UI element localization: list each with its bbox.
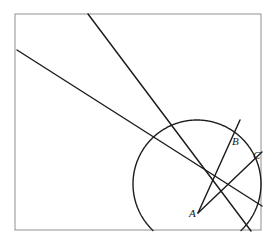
- point-label-b: B: [232, 135, 239, 147]
- point-label-c: C: [253, 149, 261, 161]
- geometry-figure: A B C: [0, 0, 276, 245]
- figure-canvas: A B C: [0, 0, 276, 245]
- bounding-frame: [15, 14, 261, 230]
- point-label-a: A: [188, 207, 196, 219]
